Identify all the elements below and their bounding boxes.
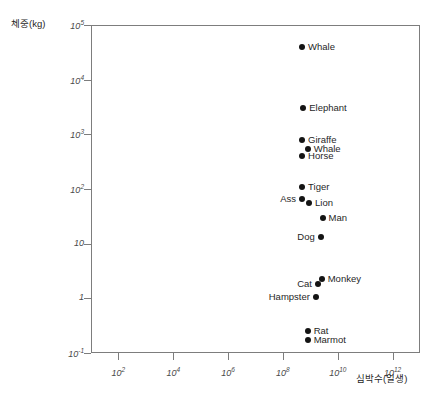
data-point-label: Marmot: [314, 335, 346, 345]
y-tick-label: 102: [54, 183, 84, 195]
y-tick-mark: [84, 80, 91, 81]
x-axis-title: 심박수(일생): [356, 371, 407, 385]
data-point-label: Elephant: [309, 103, 347, 113]
x-tick-label: 104: [166, 368, 180, 378]
y-tick-label: 10-1: [54, 347, 84, 359]
x-tick-mark: [338, 353, 339, 360]
y-tick-mark: [84, 134, 91, 135]
x-tick-mark: [228, 353, 229, 360]
y-tick-mark: [84, 298, 91, 299]
y-tick-label: 105: [54, 19, 84, 31]
data-point: [299, 184, 305, 190]
data-point: [305, 328, 311, 334]
x-tick-mark: [118, 353, 119, 360]
x-tick-mark: [393, 353, 394, 360]
data-point-label: Horse: [308, 151, 333, 161]
data-point-label: Cat: [297, 279, 312, 289]
data-point-label: Monkey: [328, 274, 361, 284]
y-tick-mark: [84, 244, 91, 245]
data-point-label: Ass: [280, 194, 296, 204]
data-point: [299, 137, 305, 143]
x-tick-label: 1010: [329, 368, 346, 378]
y-tick-label: 10: [54, 238, 84, 248]
y-tick-mark: [84, 25, 91, 26]
plot-area: [91, 25, 420, 353]
y-tick-label: 1: [54, 292, 84, 302]
data-point-label: Lion: [315, 198, 333, 208]
data-point-label: Dog: [297, 232, 314, 242]
data-point-label: Whale: [308, 42, 335, 52]
y-tick-mark: [84, 353, 91, 354]
data-point-label: Tiger: [308, 182, 329, 192]
data-point-label: Hampster: [269, 292, 310, 302]
x-tick-label: 106: [221, 368, 235, 378]
y-tick-mark: [84, 189, 91, 190]
x-tick-label: 102: [112, 368, 126, 378]
x-tick-label: 108: [276, 368, 290, 378]
y-axis-title: 체중(kg): [11, 16, 45, 30]
figure-panel-b: 체중(kg) B 10510410310210110-1 10210410610…: [0, 0, 440, 404]
y-tick-label: 104: [54, 74, 84, 86]
y-tick-label: 103: [54, 128, 84, 140]
data-point: [299, 44, 305, 50]
x-tick-mark: [173, 353, 174, 360]
data-point-label: Man: [329, 213, 347, 223]
x-tick-mark: [283, 353, 284, 360]
data-point: [320, 215, 326, 221]
